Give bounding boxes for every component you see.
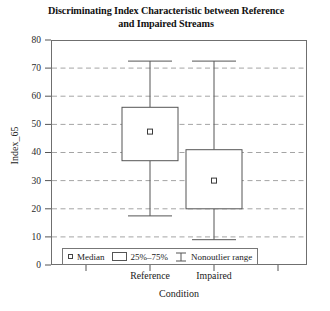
whisker-ibeam-icon — [175, 252, 187, 262]
y-axis-label: Index_65 — [9, 116, 20, 176]
median-square-icon — [68, 254, 73, 259]
ytick-label-20: 20 — [15, 204, 41, 214]
x-axis-label: Condition — [51, 288, 307, 299]
ytick-label-0: 0 — [15, 260, 41, 270]
legend-label-nonoutlier-range: Nonoutlier range — [191, 252, 252, 262]
y-axis-ticks — [45, 40, 51, 265]
reference-median-marker — [148, 129, 153, 134]
legend-item-iqr: 25%–75% — [112, 252, 169, 262]
ytick-label-10: 10 — [15, 232, 41, 242]
legend-item-nonoutlier-range: Nonoutlier range — [175, 252, 252, 262]
xtick-label-impaired: Impaired — [174, 270, 254, 281]
ytick-label-60: 60 — [15, 91, 41, 101]
ytick-label-70: 70 — [15, 63, 41, 73]
iqr-rectangle-icon — [112, 252, 127, 261]
chart-legend: Median 25%–75% Nonoutlier range — [62, 248, 258, 265]
gridlines — [52, 68, 306, 237]
boxplot-reference — [122, 61, 178, 216]
legend-item-median: Median — [68, 252, 105, 262]
impaired-median-marker — [212, 178, 217, 183]
ytick-label-80: 80 — [15, 35, 41, 45]
boxplot-impaired — [186, 61, 242, 240]
legend-label-median: Median — [77, 252, 105, 262]
boxplot-chart: Discriminating Index Characteristic betw… — [0, 0, 330, 311]
legend-label-iqr: 25%–75% — [131, 252, 169, 262]
ytick-label-30: 30 — [15, 176, 41, 186]
